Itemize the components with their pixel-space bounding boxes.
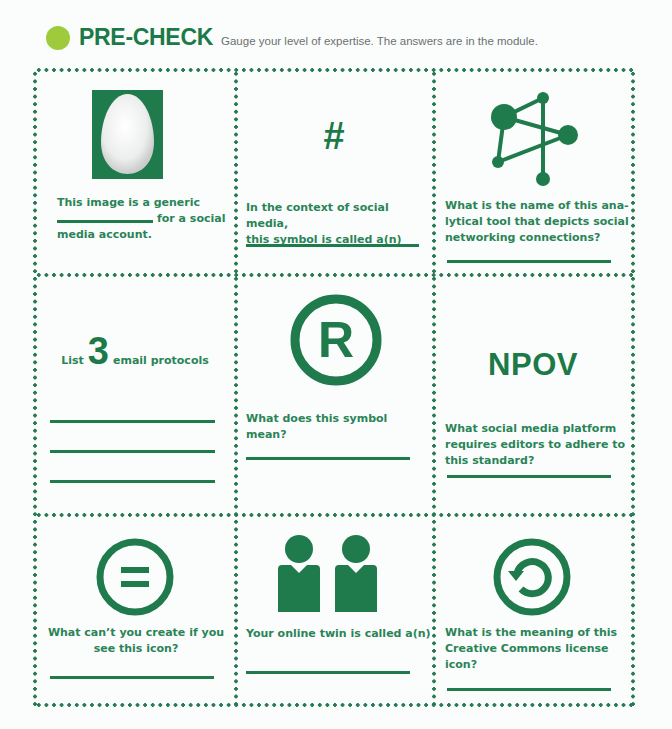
- question-text: This image is a generic for a social med…: [57, 195, 227, 243]
- question-line: requires editors to adhere to: [445, 437, 630, 453]
- question-line: What is the meaning of this: [445, 625, 630, 641]
- cell-registered-symbol: R What does this symbol mean?: [235, 275, 433, 515]
- answer-line[interactable]: [246, 244, 419, 247]
- cell-network-graph: What is the name of this ana- lytical to…: [433, 70, 633, 275]
- egg-avatar-icon: [92, 90, 163, 179]
- cell-no-derivatives: What can’t you create if you see this ic…: [35, 515, 235, 705]
- cell-npov: NPOV What social media platform requires…: [433, 275, 633, 515]
- answer-line[interactable]: [246, 671, 410, 674]
- question-text: In the context of social media, this sym…: [246, 200, 426, 248]
- twin-persons-icon: [277, 535, 379, 615]
- question-text: What is the meaning of this Creative Com…: [445, 625, 630, 673]
- cell-share-alike: What is the meaning of this Creative Com…: [433, 515, 633, 705]
- answer-line[interactable]: [447, 475, 611, 478]
- question-text: What is the name of this ana- lytical to…: [445, 198, 630, 246]
- answer-line[interactable]: [447, 688, 611, 691]
- question-line: for a social: [157, 211, 225, 227]
- npov-label: NPOV: [433, 347, 633, 383]
- registered-trademark-icon: R: [289, 293, 383, 387]
- cell-egg-avatar: This image is a generic for a social med…: [35, 70, 235, 275]
- bullet-circle-icon: [46, 26, 70, 50]
- answer-line-1[interactable]: [50, 420, 215, 423]
- no-derivatives-icon: [95, 537, 175, 617]
- question-line: What can’t you create if you: [43, 625, 229, 641]
- answer-line[interactable]: [246, 457, 410, 460]
- precheck-header: PRE-CHECK Gauge your level of expertise.…: [46, 24, 538, 51]
- page-title: PRE-CHECK: [79, 24, 213, 51]
- cell-online-twin: Your online twin is called a(n): [235, 515, 433, 705]
- question-line: networking connections?: [445, 230, 630, 246]
- question-text: What social media platform requires edit…: [445, 421, 630, 469]
- network-graph-icon: [483, 85, 593, 195]
- question-text: What does this symbol mean?: [246, 411, 431, 443]
- question-line: Creative Commons license: [445, 641, 630, 657]
- answer-line[interactable]: [447, 260, 611, 263]
- question-line: In the context of social media,: [246, 200, 426, 232]
- question-line: What social media platform: [445, 421, 630, 437]
- answer-line-2[interactable]: [50, 450, 215, 453]
- precheck-grid: This image is a generic for a social med…: [35, 70, 633, 705]
- question-line: this standard?: [445, 453, 630, 469]
- answer-blank[interactable]: [57, 220, 153, 223]
- answer-line[interactable]: [50, 676, 214, 679]
- svg-text:R: R: [318, 312, 354, 368]
- question-line: icon?: [445, 657, 630, 673]
- question-text: What can’t you create if you see this ic…: [43, 625, 229, 657]
- question-line: see this icon?: [43, 641, 229, 657]
- answer-line-3[interactable]: [50, 480, 215, 483]
- share-alike-icon: [492, 537, 572, 617]
- hashtag-icon: #: [235, 116, 433, 156]
- question-line: What is the name of this ana-: [445, 198, 630, 214]
- cell-email-protocols: List 3 email protocols: [35, 275, 235, 515]
- cell-hashtag: # In the context of social media, this s…: [235, 70, 433, 275]
- question-line: media account.: [57, 227, 227, 243]
- count-number: 3: [88, 333, 109, 369]
- question-text: List 3 email protocols: [35, 333, 235, 379]
- question-line: lytical tool that depicts social: [445, 214, 630, 230]
- question-line: This image is a generic: [57, 195, 227, 211]
- question-text: Your online twin is called a(n): [246, 626, 432, 642]
- question-suffix: email protocols: [113, 343, 209, 379]
- page-subtitle: Gauge your level of expertise. The answe…: [221, 35, 538, 47]
- question-prefix: List: [61, 343, 84, 379]
